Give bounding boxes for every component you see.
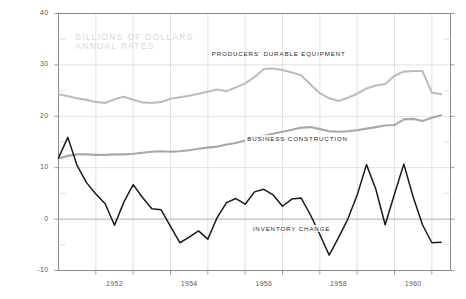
units-annotation-line2: ANNUAL RATES — [75, 41, 154, 51]
x-tick-label-1954: 1954 — [169, 280, 209, 287]
y-tick-label-0: 0 — [23, 215, 49, 222]
chart-container: 40 30 20 10 0 -10 1952 1954 1956 1958 19… — [0, 0, 466, 299]
y-tick-label-10: 10 — [23, 163, 49, 170]
series-path-0 — [59, 69, 442, 103]
series-label-inventory-change: INVENTORY CHANGE — [251, 225, 333, 232]
chart-plot-svg — [0, 0, 466, 299]
series-label-business-construction: BUSINESS CONSTRUCTION — [245, 135, 350, 142]
y-tick-label-20: 20 — [23, 112, 49, 119]
y-tick-label-minus10: -10 — [23, 266, 49, 273]
x-tick-label-1958: 1958 — [319, 280, 359, 287]
y-tick-label-30: 30 — [23, 60, 49, 67]
series-label-producers-durable-equipment: PRODUCERS' DURABLE EQUIPMENT — [210, 50, 348, 57]
x-tick-label-1956: 1956 — [244, 280, 284, 287]
x-tick-label-1960: 1960 — [393, 280, 433, 287]
y-tick-label-40: 40 — [23, 9, 49, 16]
x-tick-label-1952: 1952 — [95, 280, 135, 287]
